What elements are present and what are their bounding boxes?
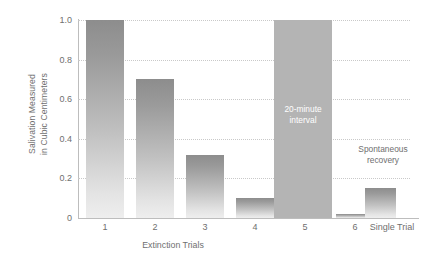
y-tick-0.8: 0.8 (48, 56, 72, 65)
y-axis-tick-labels: 1.0 0.8 0.6 0.4 0.2 0 (44, 20, 72, 218)
interval-block: 20-minute interval (274, 20, 332, 218)
y-tick-0.6: 0.6 (48, 95, 72, 104)
x-axis-title: Extinction Trials (78, 240, 268, 250)
x-tick-4: 4 (236, 222, 274, 232)
bar-trial-4 (236, 198, 274, 218)
gridline-0.8 (78, 60, 410, 61)
gridline-1.0 (78, 20, 410, 21)
bar-trial-2 (136, 79, 174, 218)
x-axis-line (78, 218, 419, 219)
y-tick-0.2: 0.2 (48, 174, 72, 183)
bar-trial-3 (186, 155, 224, 218)
plot-area (78, 20, 410, 218)
gridline-0.2 (78, 178, 410, 179)
bar-trial-1 (86, 20, 124, 218)
x-tick-3: 3 (186, 222, 224, 232)
y-tick-0: 0 (48, 214, 72, 223)
interval-block-label: 20-minute interval (274, 104, 332, 125)
x-tick-1: 1 (86, 222, 124, 232)
y-tick-0.4: 0.4 (48, 135, 72, 144)
spontaneous-recovery-annotation: Spontaneous recovery (336, 144, 430, 165)
x-tick-single-trial: Single Trial (355, 222, 429, 232)
bar-single-trial (365, 188, 396, 218)
x-tick-5: 5 (286, 222, 324, 232)
gridline-0.6 (78, 99, 410, 100)
salivation-extinction-bar-chart: Salivation Measured in Cubic Centimeters… (0, 0, 433, 269)
x-tick-2: 2 (136, 222, 174, 232)
gridline-0.4 (78, 139, 410, 140)
y-tick-1.0: 1.0 (48, 16, 72, 25)
